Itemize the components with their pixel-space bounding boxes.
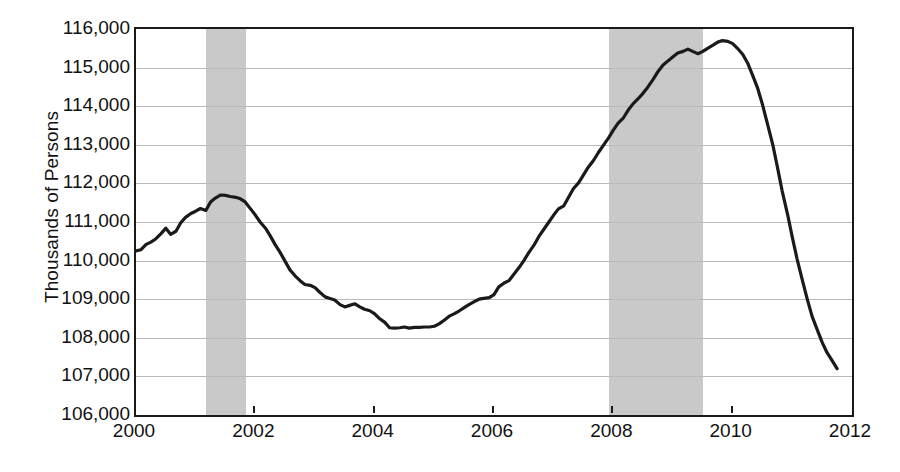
x-axis-tick-mark	[611, 406, 613, 413]
x-axis-tick-mark	[373, 406, 375, 413]
x-axis-tick-label: 2012	[805, 421, 895, 440]
x-axis-tick-label: 2002	[208, 421, 298, 440]
x-axis-tick-labels: 2000200220042006200820102012	[0, 0, 900, 472]
chart-figure: Thousands of Persons 116,000115,000114,0…	[0, 0, 900, 472]
x-axis-tick-label: 2004	[328, 421, 418, 440]
x-axis-tick-label: 2008	[566, 421, 656, 440]
x-axis-tick-mark	[492, 406, 494, 413]
x-axis-tick-mark	[253, 406, 255, 413]
x-axis-tick-mark	[731, 406, 733, 413]
x-axis-tick-label: 2000	[89, 421, 179, 440]
x-axis-tick-label: 2006	[447, 421, 537, 440]
x-axis-tick-label: 2010	[686, 421, 776, 440]
